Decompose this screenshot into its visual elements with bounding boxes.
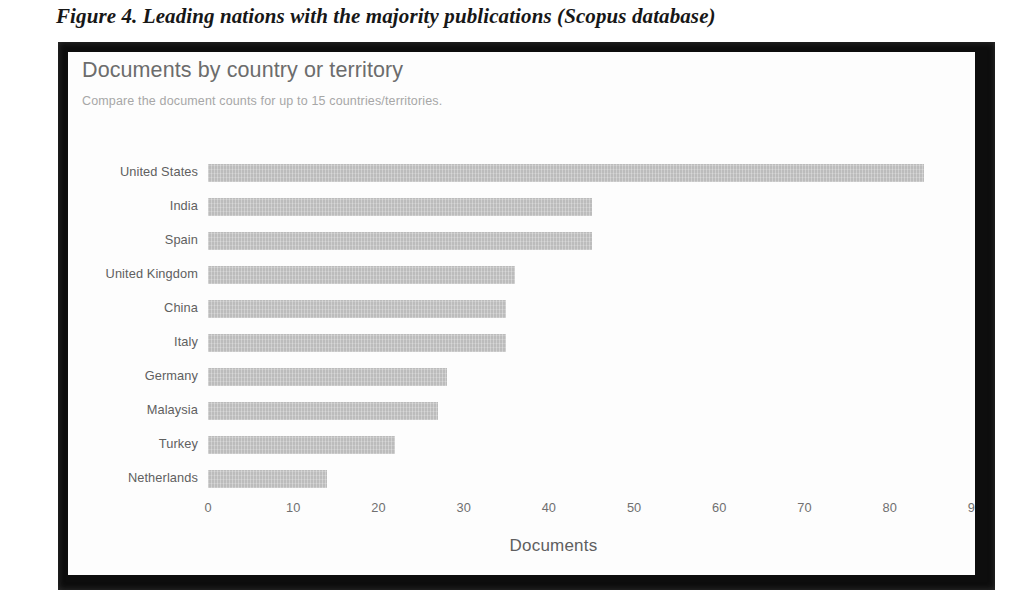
- bar-row: Turkey: [68, 428, 975, 462]
- chart-card: Documents by country or territory Compar…: [68, 52, 975, 575]
- bar[interactable]: [208, 436, 395, 454]
- x-axis-tick-label: 40: [542, 500, 556, 515]
- bar-track: [208, 156, 975, 190]
- bar[interactable]: [208, 470, 327, 488]
- bar-row: Netherlands: [68, 462, 975, 496]
- x-axis-tick-label: 20: [371, 500, 385, 515]
- x-axis: 0102030405060708090: [208, 500, 975, 526]
- bar-row: Germany: [68, 360, 975, 394]
- bar-category-label: United Kingdom: [68, 266, 198, 281]
- x-axis-tick-label: 70: [797, 500, 811, 515]
- bar-row: United Kingdom: [68, 258, 975, 292]
- bar-category-label: Malaysia: [68, 402, 198, 417]
- bar[interactable]: [208, 266, 515, 284]
- bar-row: Spain: [68, 224, 975, 258]
- bar[interactable]: [208, 334, 506, 352]
- bar-track: [208, 326, 975, 360]
- bar[interactable]: [208, 368, 447, 386]
- bar-chart-plot-area: United StatesIndiaSpainUnited KingdomChi…: [68, 156, 975, 496]
- x-axis-tick-label: 80: [883, 500, 897, 515]
- bar[interactable]: [208, 198, 592, 216]
- bar[interactable]: [208, 232, 592, 250]
- bar-category-label: Turkey: [68, 436, 198, 451]
- figure-frame: Documents by country or territory Compar…: [58, 42, 995, 590]
- bar-row: India: [68, 190, 975, 224]
- x-axis-tick-label: 0: [204, 500, 211, 515]
- x-axis-tick-label: 50: [627, 500, 641, 515]
- bar-category-label: India: [68, 198, 198, 213]
- bar-row: United States: [68, 156, 975, 190]
- bar-track: [208, 394, 975, 428]
- bar[interactable]: [208, 300, 506, 318]
- bar-track: [208, 462, 975, 496]
- x-axis-tick-label: 30: [456, 500, 470, 515]
- bar-track: [208, 258, 975, 292]
- bar-category-label: Spain: [68, 232, 198, 247]
- bar-row: Malaysia: [68, 394, 975, 428]
- figure-caption: Figure 4. Leading nations with the major…: [56, 4, 996, 29]
- bar-row: China: [68, 292, 975, 326]
- bar-category-label: Germany: [68, 368, 198, 383]
- bar-track: [208, 292, 975, 326]
- bar-track: [208, 190, 975, 224]
- x-axis-tick-label: 90: [968, 500, 975, 515]
- x-axis-tick-label: 60: [712, 500, 726, 515]
- bar-category-label: Netherlands: [68, 470, 198, 485]
- bar-row: Italy: [68, 326, 975, 360]
- bar[interactable]: [208, 402, 438, 420]
- bar-track: [208, 224, 975, 258]
- bar[interactable]: [208, 164, 924, 182]
- bar-track: [208, 360, 975, 394]
- x-axis-title-label: Documents: [510, 536, 598, 555]
- x-axis-tick-label: 10: [286, 500, 300, 515]
- bar-track: [208, 428, 975, 462]
- bar-category-label: Italy: [68, 334, 198, 349]
- chart-subtitle: Compare the document counts for up to 15…: [82, 94, 442, 108]
- x-axis-title: Documents: [68, 536, 975, 556]
- bar-category-label: United States: [68, 164, 198, 179]
- bar-category-label: China: [68, 300, 198, 315]
- chart-title: Documents by country or territory: [82, 58, 403, 83]
